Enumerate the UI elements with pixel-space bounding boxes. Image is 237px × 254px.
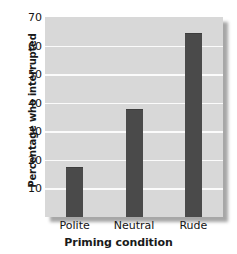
x-axis-tick-label: Neutral	[114, 219, 155, 232]
x-axis-title: Priming condition	[0, 236, 237, 249]
bar-neutral	[126, 109, 143, 217]
x-axis-tick-labels: PoliteNeutralRude	[45, 219, 223, 235]
bar-chart-figure: Percentage who interrupted 7060504030201…	[0, 0, 237, 254]
y-axis-tick-label: 50	[22, 69, 42, 80]
plot-inner	[45, 17, 223, 217]
bar-rude	[185, 33, 202, 217]
y-axis-tick-label: 20	[22, 154, 42, 165]
x-axis-tick-label: Rude	[179, 219, 207, 232]
y-axis-tick-label: 40	[22, 97, 42, 108]
x-axis-tick-label: Polite	[60, 219, 90, 232]
y-axis-tick-label: 10	[22, 183, 42, 194]
y-axis-tick-label: 70	[22, 12, 42, 23]
y-axis-tick-label: 60	[22, 40, 42, 51]
plot-area	[45, 17, 223, 217]
y-axis-tick-label: 30	[22, 126, 42, 137]
bar-polite	[66, 167, 83, 217]
y-axis-tick-labels: 70605040302010	[22, 0, 42, 254]
